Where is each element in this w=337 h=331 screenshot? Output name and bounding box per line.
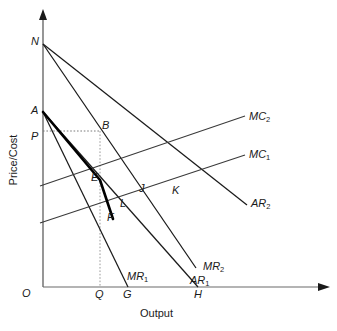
curve-label-ar1: AR1 [190, 275, 209, 286]
y-axis-label: Price/Cost [7, 125, 19, 195]
point-label-e: E [91, 172, 98, 183]
point-label-j: J [139, 183, 145, 194]
x-axis-label: Output [140, 307, 173, 319]
curve-label-mr1-text: MR [127, 270, 144, 282]
point-label-f: F [107, 212, 114, 223]
point-label-h: H [194, 289, 202, 300]
point-label-k: K [172, 185, 179, 196]
mr1-curve [43, 112, 128, 287]
curve-label-mr2: MR2 [203, 261, 224, 272]
curve-label-ar2: AR2 [251, 198, 270, 209]
curve-label-ar1-sub: 1 [205, 279, 209, 288]
curve-label-ar1-text: AR [190, 274, 205, 286]
curve-label-ar2-text: AR [251, 197, 266, 209]
curve-label-mr2-text: MR [203, 260, 220, 272]
curve-label-mc2-sub: 2 [266, 115, 270, 124]
guide-lines-group [43, 131, 100, 287]
point-label-a: A [31, 105, 38, 116]
point-label-b: B [102, 120, 109, 131]
y-axis-arrow [39, 9, 47, 20]
economics-diagram: Price/Cost Output N A P B E F L J K O Q … [0, 0, 337, 331]
mc2-curve [40, 116, 245, 186]
curve-label-ar2-sub: 2 [266, 202, 270, 211]
curve-label-mc1-sub: 1 [266, 153, 270, 162]
point-label-o: O [22, 288, 31, 299]
curve-label-mr1: MR1 [127, 271, 148, 282]
point-label-q: Q [95, 289, 104, 300]
x-axis-arrow [318, 283, 330, 291]
curve-label-mc2: MC2 [249, 111, 270, 122]
curve-label-mr1-sub: 1 [144, 275, 148, 284]
curve-label-mc1-text: MC [249, 148, 266, 160]
axes-group [39, 9, 330, 291]
point-label-p: P [31, 131, 38, 142]
curve-label-mc2-text: MC [249, 110, 266, 122]
curve-label-mc1: MC1 [249, 149, 270, 160]
point-label-n: N [31, 36, 39, 47]
ar2-curve [43, 44, 247, 205]
chart-canvas [0, 0, 337, 331]
mr2-curve [43, 44, 196, 268]
point-label-g: G [123, 289, 132, 300]
curves-group [40, 44, 247, 287]
point-label-l: L [120, 198, 126, 209]
curve-label-mr2-sub: 2 [220, 265, 224, 274]
